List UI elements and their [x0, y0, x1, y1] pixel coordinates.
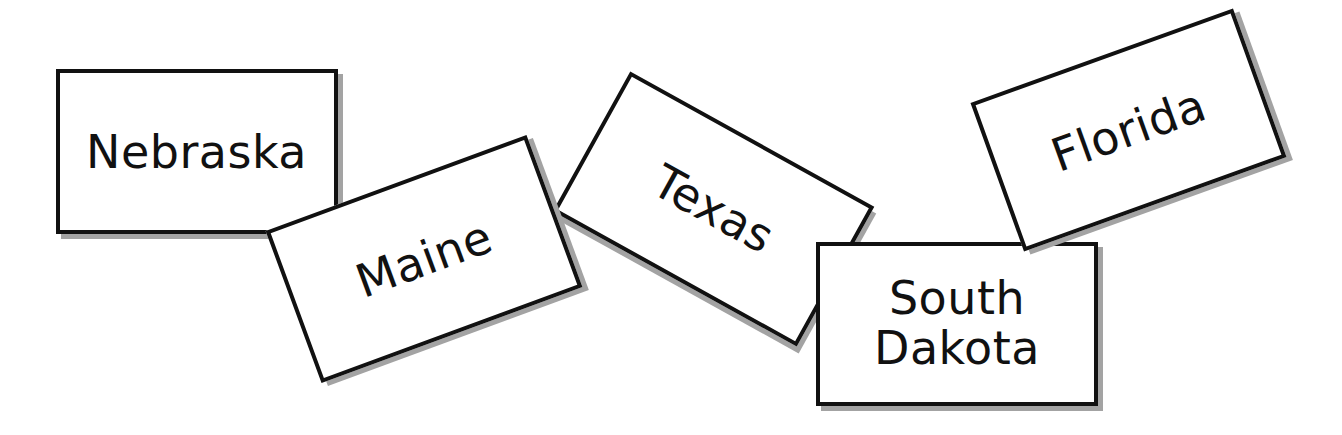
card-label-south-dakota: South Dakota: [874, 274, 1040, 373]
card-label-line-2: Dakota: [874, 324, 1040, 374]
card-label-line-1: South: [874, 274, 1040, 324]
card-nebraska[interactable]: Nebraska: [56, 69, 338, 234]
word-card-canvas: Nebraska Texas Maine South Dakota Florid…: [0, 0, 1342, 435]
card-label-nebraska: Nebraska: [86, 129, 307, 175]
card-label-texas: Texas: [645, 157, 781, 260]
card-south-dakota[interactable]: South Dakota: [816, 242, 1098, 406]
card-florida[interactable]: Florida: [970, 8, 1286, 251]
card-label-maine: Maine: [350, 213, 498, 305]
card-label-florida: Florida: [1045, 81, 1211, 178]
